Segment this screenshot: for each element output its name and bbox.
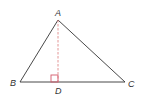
side-ac — [58, 20, 125, 82]
label-a: A — [54, 8, 61, 18]
triangle-diagram: A B C D — [0, 0, 150, 99]
right-angle-marker — [51, 75, 58, 82]
side-ab — [20, 20, 58, 82]
label-b: B — [10, 78, 16, 88]
label-c: C — [128, 79, 135, 89]
label-d: D — [55, 86, 62, 96]
